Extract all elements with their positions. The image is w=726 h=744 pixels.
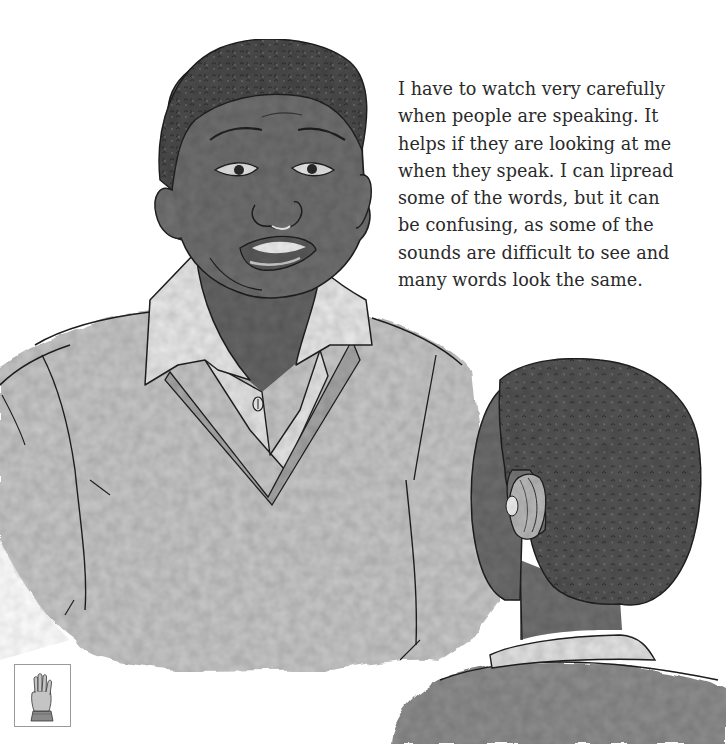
story-line-3: helps if they are looking at me [398,131,718,158]
story-line-1: I have to watch very carefully [398,76,718,103]
story-line-5: some of the words, but it can [398,185,718,212]
listening-boy-jumper [390,662,726,744]
story-text: I have to watch very carefully when peop… [398,76,718,294]
story-line-2: when people are speaking. It [398,103,718,130]
story-line-4: when they speak. I can lipread [398,158,718,185]
story-line-7: sounds are difficult to see and [398,240,718,267]
raised-hand-sign-icon [14,664,71,727]
book-page: I have to watch very carefully when peop… [0,0,726,744]
story-line-8: many words look the same. [398,267,718,294]
story-line-6: be confusing, as some of the [398,212,718,239]
